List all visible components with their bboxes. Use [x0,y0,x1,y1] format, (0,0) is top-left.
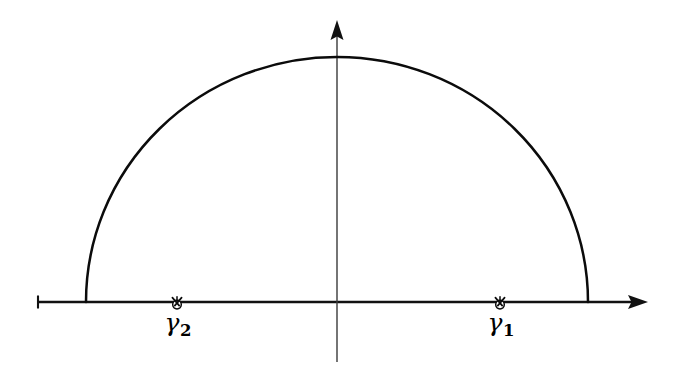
real-axis-group [37,295,648,309]
gamma-2-label: γ2 [165,310,192,339]
gamma-1-label: γ1 [488,310,515,339]
gamma-2-symbol: γ [165,308,180,337]
gamma-1-subscript: 1 [503,321,514,340]
imaginary-axis-group [331,20,344,362]
figure-canvas: γ2 γ1 [0,0,673,370]
gamma-1-symbol: γ [488,308,503,337]
gamma-2-subscript: 2 [180,321,191,340]
contour-diagram [0,0,673,370]
